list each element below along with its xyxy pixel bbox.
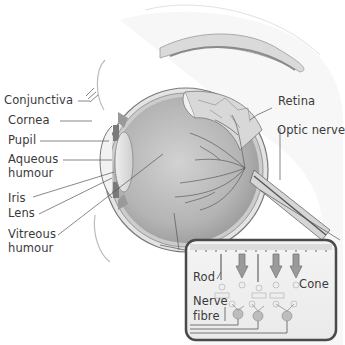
label-cornea: Cornea — [8, 114, 50, 127]
lens — [115, 132, 133, 192]
label-vitreous-humour-line1: Vitreous — [8, 228, 56, 241]
label-aqueous-humour-line1: Aqueous — [8, 153, 58, 166]
inset-label-cone: Cone — [299, 278, 329, 291]
label-conjunctiva: Conjunctiva — [4, 94, 73, 107]
label-pupil: Pupil — [8, 134, 36, 147]
cornea — [100, 126, 112, 198]
label-retina: Retina — [278, 95, 315, 108]
label-lens: Lens — [8, 207, 35, 220]
label-optic-nerve: Optic nerve — [277, 124, 345, 137]
inset-label-nerve-fibre-line1: Nerve — [193, 295, 228, 308]
label-aqueous-humour-line2: humour — [8, 167, 53, 180]
label-vitreous-humour-line2: humour — [8, 242, 53, 255]
label-iris: Iris — [8, 192, 26, 205]
inset-label-rod: Rod — [193, 271, 215, 284]
inset-label-nerve-fibre-line2: fibre — [193, 310, 220, 323]
